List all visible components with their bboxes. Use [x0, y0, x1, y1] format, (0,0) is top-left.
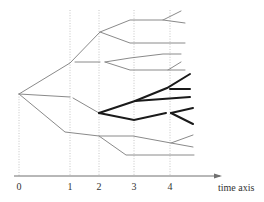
tick-label-2: 2: [97, 181, 102, 192]
tick-label-1: 1: [68, 181, 73, 192]
branch-path: [105, 62, 181, 70]
highlighted-branch-path: [171, 113, 193, 124]
highlighted-branch-path: [99, 74, 190, 113]
branch-path: [105, 54, 181, 62]
tick-label-3: 3: [132, 181, 137, 192]
time-guide-lines: [19, 10, 170, 176]
highlighted-branch-path: [99, 113, 166, 120]
highlighted-branch-path: [171, 108, 193, 113]
time-axis: 01234 time axis: [14, 174, 254, 194]
time-axis-label: time axis: [218, 182, 254, 193]
branching-tree-diagram: 01234 time axis: [0, 0, 264, 202]
branch-path: [73, 98, 99, 113]
branch-path: [19, 11, 181, 94]
branch-path: [19, 94, 70, 97]
branch-path: [171, 143, 193, 147]
branch-path: [163, 20, 185, 23]
thin-branches: [19, 11, 194, 155]
highlighted-branches: [99, 74, 193, 124]
axis-arrow-icon: [214, 174, 222, 179]
tick-label-4: 4: [168, 181, 173, 192]
tick-labels: 01234: [17, 181, 173, 192]
branch-path: [100, 32, 185, 43]
tick-label-0: 0: [17, 181, 22, 192]
branch-path: [19, 94, 193, 143]
